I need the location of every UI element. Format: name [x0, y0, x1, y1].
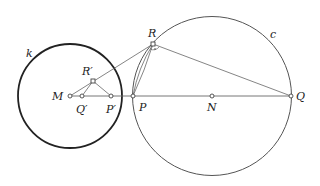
point-R-prime — [91, 79, 95, 83]
label-R-prime: R′ — [81, 65, 93, 78]
point-M — [68, 94, 72, 98]
label-N: N — [206, 101, 217, 114]
point-P — [131, 94, 135, 98]
right-angle-dot — [154, 48, 156, 50]
point-Q — [289, 94, 293, 98]
geometry-diagram: k c M Q′ P′ P N Q R′ R — [0, 0, 320, 186]
label-P-prime: P′ — [105, 103, 116, 116]
arc-RP-1 — [133, 44, 153, 96]
label-Q-prime: Q′ — [76, 103, 88, 116]
point-P-prime — [109, 94, 113, 98]
line-RQ — [153, 44, 291, 96]
line-RpPp — [93, 81, 111, 96]
label-M: M — [51, 90, 64, 103]
label-k: k — [26, 47, 33, 60]
arc-RP-2 — [133, 44, 153, 96]
label-R: R — [147, 27, 156, 40]
label-Q: Q — [296, 90, 305, 103]
label-P: P — [138, 101, 147, 114]
point-R — [151, 42, 155, 46]
point-N — [210, 94, 214, 98]
label-c: c — [270, 28, 276, 41]
point-Q-prime — [80, 94, 84, 98]
